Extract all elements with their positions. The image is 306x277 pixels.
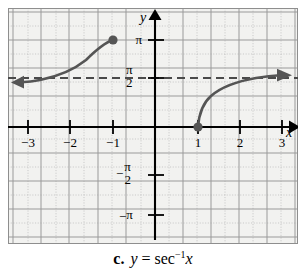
fraction-pi-over-2: π 2 [125,63,134,90]
caption-lhs: y [130,250,137,267]
y-tick-label-pi-over-2: π 2 [125,63,134,90]
y-tick-label-neg-pi: −π [119,208,133,223]
x-tick-label--1: −1 [100,136,126,149]
y-tick-label-neg-pi-over-2: − π 2 [116,160,132,187]
plot-area: −3 −2 −1 1 2 3 π π 2 − π 2 −π y x [8,8,298,244]
x-tick-label--2: −2 [57,136,83,149]
y-tick-label-pi: π [124,33,142,46]
x-tick-label-2: 2 [227,136,253,149]
x-tick-label--3: −3 [15,136,41,149]
caption-function-name: sec [155,250,175,267]
endpoint-dot-left [108,35,117,44]
caption-argument: x [186,250,193,267]
minus-sign-pi-over-2: − [116,167,123,180]
figure-caption: c.y = sec−1x [0,249,306,268]
graph-canvas [8,8,298,244]
figure-sec-inverse: −3 −2 −1 1 2 3 π π 2 − π 2 −π y x [0,0,306,277]
x-axis-label: x [286,125,292,141]
caption-equals: = [142,250,151,267]
fraction-numerator: π [123,160,132,173]
y-axis-label: y [140,10,146,26]
caption-exponent: −1 [175,249,186,260]
fraction-denominator: 2 [123,173,132,186]
fraction-denominator: 2 [125,76,134,89]
fraction-neg-pi-over-2: π 2 [123,160,132,187]
pi-symbol: π [126,207,133,222]
caption-letter: c. [113,250,124,267]
endpoint-dot-right [193,122,202,131]
fraction-numerator: π [125,63,134,76]
x-tick-label-1: 1 [185,136,211,149]
